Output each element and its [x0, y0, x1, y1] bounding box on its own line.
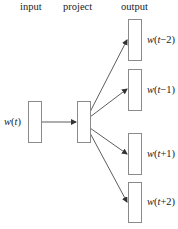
output-word-label-4: w(t+2) [147, 196, 175, 208]
output-word-label-1: w(t−2) [147, 34, 175, 46]
output-box-2 [128, 69, 142, 111]
output-box-3 [128, 133, 142, 175]
arrow-project-to-output-1 [90, 40, 127, 112]
output-box-4 [128, 182, 142, 223]
projection-box [77, 101, 91, 143]
input-word-label: w(t) [4, 116, 21, 128]
arrow-project-to-output-2 [90, 89, 127, 117]
output-word-label-2: w(t−1) [147, 84, 175, 96]
arrow-project-to-output-3 [90, 128, 127, 154]
output-word-label-3: w(t+1) [147, 148, 175, 160]
arrow-project-to-output-4 [90, 133, 127, 202]
input-box [28, 101, 42, 143]
output-box-1 [128, 19, 142, 61]
